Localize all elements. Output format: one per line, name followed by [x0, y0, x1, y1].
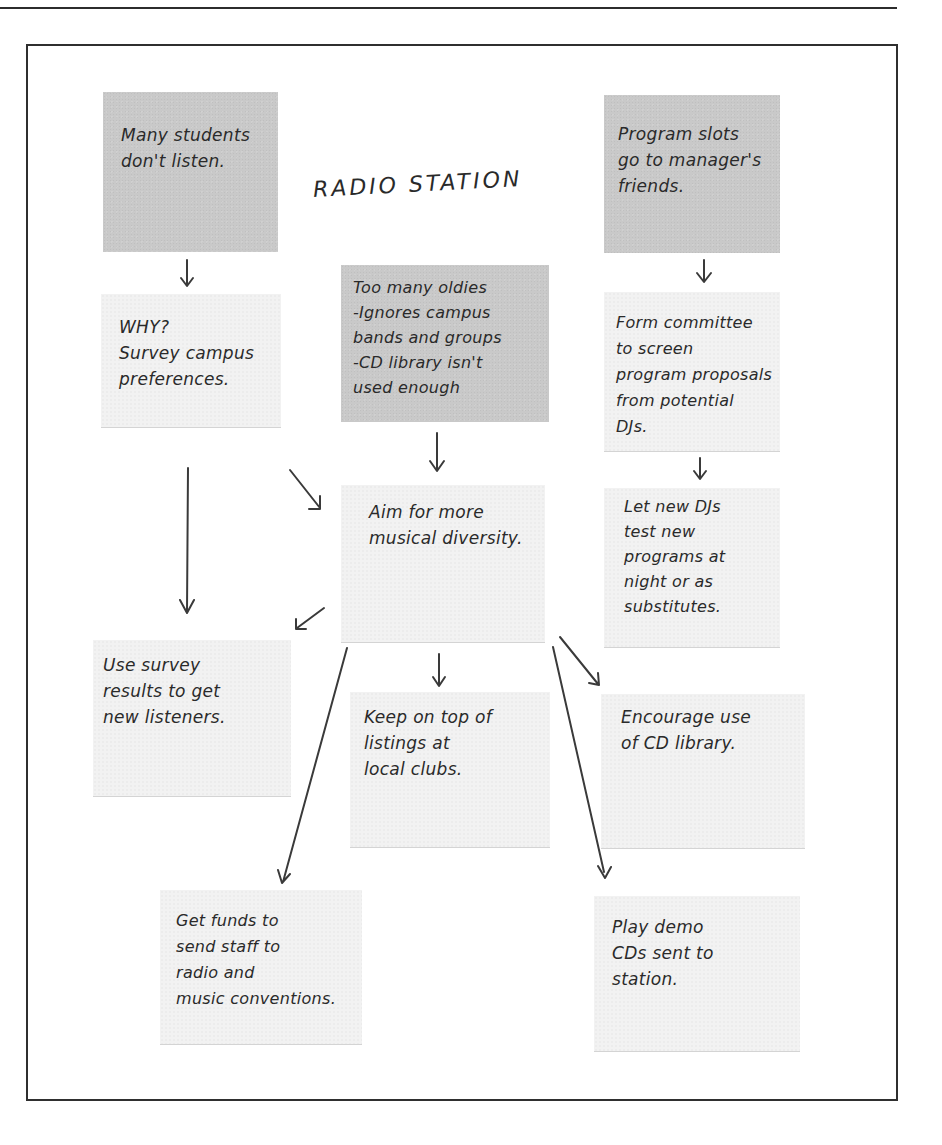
note-text: Many students don't listen.: [121, 122, 250, 174]
note-text: Too many oldies -Ignores campus bands an…: [353, 275, 502, 400]
note-problem-slots: Program slots go to manager's friends.: [604, 95, 780, 253]
note-aim-diversity: Aim for more musical diversity.: [341, 485, 545, 643]
note-play-demo: Play demo CDs sent to station.: [594, 896, 800, 1052]
note-text: Play demo CDs sent to station.: [612, 914, 714, 992]
note-text: Let new DJs test new programs at night o…: [624, 494, 725, 619]
note-keep-listings: Keep on top of listings at local clubs.: [350, 692, 550, 848]
note-text: Form committee to screen program proposa…: [616, 310, 772, 440]
note-why-survey: WHY? Survey campus preferences.: [101, 294, 281, 428]
page: RADIO STATION Many students don't listen…: [0, 0, 942, 1145]
note-form-committee: Form committee to screen program proposa…: [604, 292, 780, 452]
note-text: Get funds to send staff to radio and mus…: [176, 908, 336, 1012]
note-text: Aim for more musical diversity.: [369, 499, 523, 551]
note-problem-oldies: Too many oldies -Ignores campus bands an…: [341, 265, 549, 422]
note-encourage-cd: Encourage use of CD library.: [601, 694, 805, 849]
note-text: Program slots go to manager's friends.: [618, 121, 762, 199]
note-text: WHY? Survey campus preferences.: [119, 314, 254, 392]
top-rule: [0, 7, 897, 9]
note-use-survey: Use survey results to get new listeners.: [93, 640, 291, 797]
note-let-new-djs: Let new DJs test new programs at night o…: [604, 488, 780, 648]
note-problem-students: Many students don't listen.: [103, 92, 278, 252]
note-text: Use survey results to get new listeners.: [103, 652, 226, 730]
note-text: Keep on top of listings at local clubs.: [364, 704, 492, 782]
note-text: Encourage use of CD library.: [621, 704, 751, 756]
note-get-funds: Get funds to send staff to radio and mus…: [160, 890, 362, 1045]
